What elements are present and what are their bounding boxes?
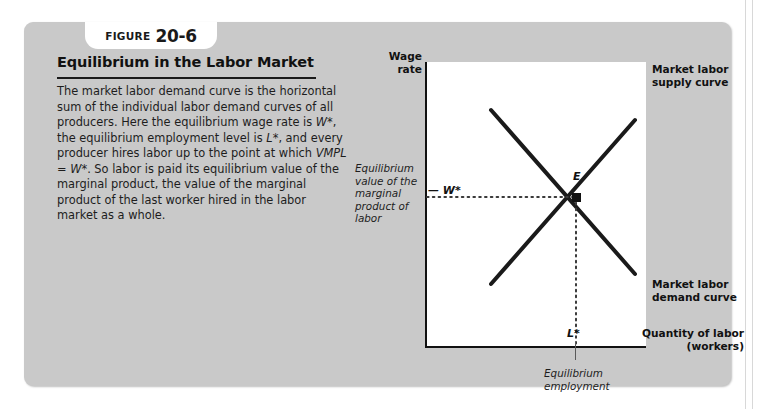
- figure-number-tab: Figure 20-6: [85, 22, 217, 49]
- vmp-callout-annotation: Equilibrium value of the marginal produc…: [355, 162, 421, 225]
- equilibrium-point-label: E: [573, 170, 581, 183]
- demand-curve-label: Market labor demand curve: [652, 278, 742, 304]
- supply-curve-line: [491, 120, 635, 284]
- equilibrium-quantity-leader-line: [575, 342, 576, 360]
- figure-tab-number: 20-6: [155, 26, 196, 46]
- equilibrium-wage-label: — W*: [428, 184, 461, 197]
- figure-panel: Figure 20-6 Equilibrium in the Labor Mar…: [24, 22, 731, 386]
- page-root: Figure 20-6 Equilibrium in the Labor Mar…: [0, 0, 761, 409]
- page-margin-rule-right: [752, 0, 753, 409]
- chart-plot-area: [425, 62, 646, 348]
- title-divider: [57, 77, 316, 79]
- figure-title: Equilibrium in the Labor Market: [57, 54, 314, 70]
- equilibrium-point-marker: [572, 193, 581, 202]
- figure-tab-word: Figure: [105, 30, 150, 42]
- chart-curves: [425, 62, 646, 348]
- x-axis-label: Quantity of labor (workers): [624, 327, 744, 353]
- equilibrium-quantity-label: L*: [567, 327, 580, 340]
- supply-curve-label: Market labor supply curve: [652, 63, 742, 89]
- equilibrium-employment-annotation: Equilibrium employment: [544, 367, 654, 392]
- demand-curve-line: [491, 110, 635, 274]
- y-axis-label: Wage rate: [386, 50, 422, 76]
- figure-body-text: The market labor demand curve is the hor…: [57, 84, 347, 224]
- page-margin-rule-left: [745, 0, 746, 409]
